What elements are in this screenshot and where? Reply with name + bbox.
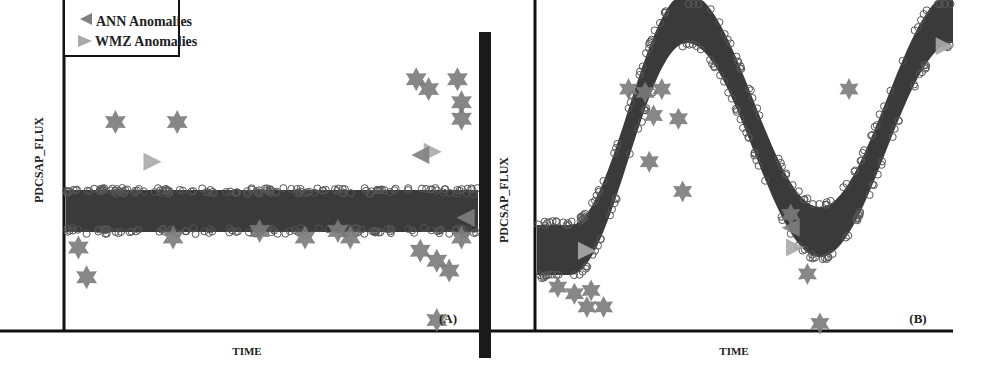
y-axis-label: PDCSAP_FLUX — [32, 117, 46, 203]
chart-a: ANN Anomalies WMZ Anomalies PDCSAP_FLUX … — [0, 0, 480, 378]
panel-label-a: (A) — [439, 311, 457, 326]
flux-band — [535, 0, 955, 282]
flux-band — [63, 185, 480, 238]
panel-a: ANN Anomalies WMZ Anomalies PDCSAP_FLUX … — [0, 0, 480, 378]
panel-b: PDCSAP_FLUX TIME (B) — [491, 0, 986, 378]
y-axis-label: PDCSAP_FLUX — [497, 157, 511, 243]
x-axis-label: TIME — [719, 345, 748, 357]
legend-ann-label: ANN Anomalies — [96, 14, 193, 29]
x-axis-label: TIME — [232, 345, 261, 357]
chart-b: PDCSAP_FLUX TIME (B) — [491, 0, 986, 378]
panel-label-b: (B) — [909, 311, 926, 326]
legend-wmz-label: WMZ Anomalies — [95, 34, 198, 49]
panel-divider — [479, 32, 491, 358]
legend: ANN Anomalies WMZ Anomalies — [64, 0, 198, 56]
